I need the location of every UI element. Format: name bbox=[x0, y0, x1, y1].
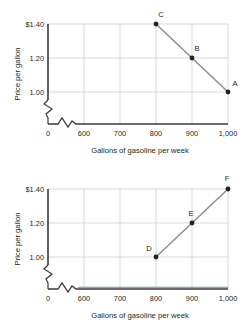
data-point-f bbox=[226, 187, 231, 192]
x-tick-label-600: 600 bbox=[78, 294, 90, 303]
x-tick-label-800: 800 bbox=[150, 294, 162, 303]
demand-curve-chart: $1.40 1.20 1.00 0 600 700 800 900 1,000 … bbox=[0, 0, 250, 164]
data-point-label-c: C bbox=[158, 10, 164, 19]
data-point-d bbox=[154, 255, 159, 260]
x-axis-line bbox=[48, 118, 228, 127]
y-tick-label-120: 1.20 bbox=[30, 54, 44, 63]
x-tick-label-900: 900 bbox=[186, 129, 198, 138]
vertical-gridlines bbox=[84, 189, 228, 289]
data-point-label-d: D bbox=[146, 244, 152, 253]
y-tick-label-100: 1.00 bbox=[30, 88, 44, 97]
y-tick-label-100: 1.00 bbox=[30, 253, 44, 262]
data-point-label-e: E bbox=[188, 209, 193, 218]
x-tick-label-600: 600 bbox=[78, 129, 90, 138]
supply-chart-canvas: $1.40 1.20 1.00 0 600 700 800 900 1,000 … bbox=[0, 165, 250, 329]
data-point-b bbox=[190, 56, 195, 61]
x-tick-label-1000: 1,000 bbox=[219, 129, 238, 138]
x-axis-title: Gallons of gasoline per week bbox=[91, 311, 189, 320]
y-tick-label-140: $1.40 bbox=[26, 185, 45, 194]
x-tick-label-700: 700 bbox=[114, 129, 126, 138]
data-point-label-b: B bbox=[194, 44, 199, 53]
x-tick-label-0: 0 bbox=[46, 294, 50, 303]
x-tick-label-800: 800 bbox=[150, 129, 162, 138]
demand-chart-canvas: $1.40 1.20 1.00 0 600 700 800 900 1,000 … bbox=[0, 0, 250, 164]
y-tick-label-120: 1.20 bbox=[30, 219, 44, 228]
horizontal-gridlines bbox=[48, 24, 228, 92]
y-tick-label-140: $1.40 bbox=[26, 20, 45, 29]
x-tick-label-1000: 1,000 bbox=[219, 294, 238, 303]
y-axis-line bbox=[44, 189, 52, 289]
data-point-a bbox=[226, 90, 231, 95]
x-tick-label-0: 0 bbox=[46, 129, 50, 138]
vertical-gridlines bbox=[84, 24, 228, 124]
y-axis-line bbox=[44, 24, 52, 124]
data-point-e bbox=[190, 221, 195, 226]
data-point-c bbox=[154, 22, 159, 27]
supply-curve-chart: $1.40 1.20 1.00 0 600 700 800 900 1,000 … bbox=[0, 165, 250, 329]
y-axis-title: Price per gallon bbox=[13, 48, 22, 101]
y-axis-title: Price per gallon bbox=[13, 213, 22, 266]
x-tick-label-900: 900 bbox=[186, 294, 198, 303]
data-point-label-f: F bbox=[225, 174, 230, 183]
x-tick-label-700: 700 bbox=[114, 294, 126, 303]
data-point-label-a: A bbox=[232, 79, 238, 88]
horizontal-gridlines bbox=[48, 189, 228, 257]
x-axis-title: Gallons of gasoline per week bbox=[91, 146, 189, 155]
